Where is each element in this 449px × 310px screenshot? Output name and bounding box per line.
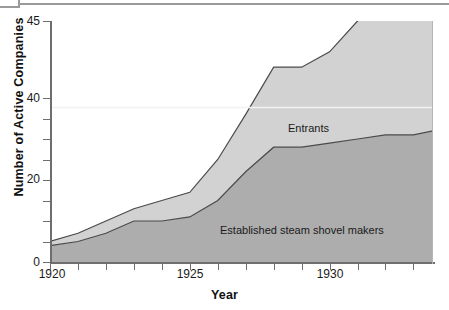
x-tick-1922: [106, 263, 107, 270]
x-tick-1933: [413, 263, 414, 270]
y-tick-45: [43, 21, 50, 22]
x-axis-title: Year: [0, 288, 449, 302]
series-label-established: Established steam shovel makers: [220, 224, 384, 236]
y-tick-35: [43, 119, 50, 120]
y-tick-0: [43, 262, 50, 263]
x-tick-label-1920: 1920: [22, 268, 82, 281]
figure-top-rule: [0, 3, 449, 5]
y-tick-5: [43, 242, 50, 243]
x-tick-1928: [274, 263, 275, 270]
y-axis-line: [50, 21, 52, 264]
x-axis-line: [50, 262, 435, 264]
x-tick-label-1930: 1930: [300, 268, 360, 281]
series-label-entrants: Entrants: [288, 122, 329, 134]
y-tick-15: [43, 201, 50, 202]
y-tick-20: [43, 180, 50, 181]
plot-right-edge: [432, 21, 433, 264]
y-tick-40: [43, 98, 50, 99]
y-axis-title: Number of Active Companies: [12, 0, 26, 222]
y-tick-25: [43, 160, 50, 161]
x-tick-1927: [246, 263, 247, 270]
y-tick-label-0: 0: [0, 256, 40, 268]
chart-figure: Entrants Established steam shovel makers…: [0, 0, 449, 310]
x-tick-1923: [134, 263, 135, 270]
x-tick-1932: [385, 263, 386, 270]
plot-area: Entrants Established steam shovel makers: [50, 21, 433, 262]
y-tick-30: [43, 139, 50, 140]
y-tick-10: [43, 221, 50, 222]
x-tick-label-1925: 1925: [160, 268, 220, 281]
